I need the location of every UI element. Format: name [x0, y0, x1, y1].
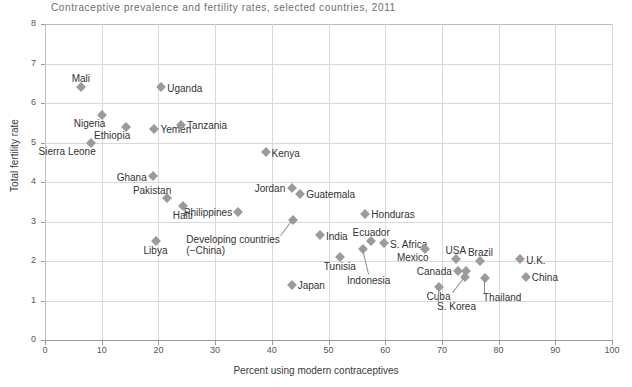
y-tick-mark — [41, 24, 45, 25]
data-point-label: Developing countries (−China) — [186, 234, 279, 256]
y-tick-label: 1 — [2, 295, 36, 305]
y-tick-mark — [41, 301, 45, 302]
data-point-label: Tunisia — [324, 261, 356, 272]
gridline-horizontal — [45, 222, 612, 223]
x-axis-label: Percent using modern contraceptives — [0, 365, 632, 376]
data-point-label: Nigeria — [74, 118, 106, 129]
gridline-horizontal — [45, 103, 612, 104]
x-tick-label: 100 — [592, 345, 632, 355]
data-point-label: Ethiopia — [94, 130, 130, 141]
y-tick-mark — [41, 182, 45, 183]
data-point-label: Ghana — [117, 172, 147, 183]
y-tick-mark — [41, 143, 45, 144]
data-point-label: Libya — [144, 245, 168, 256]
data-point-label: Kenya — [272, 148, 300, 159]
x-tick-label: 10 — [82, 345, 122, 355]
data-point-label: Thailand — [483, 292, 521, 303]
x-tick-label: 40 — [252, 345, 292, 355]
data-point-label: Haiti — [173, 210, 193, 221]
x-tick-label: 30 — [195, 345, 235, 355]
data-point-label: Mali — [72, 73, 90, 84]
data-point-label: Japan — [298, 280, 325, 291]
x-tick-label: 20 — [138, 345, 178, 355]
data-point-label: Brazil — [468, 247, 493, 258]
data-point-label: Pakistan — [133, 185, 171, 196]
data-point-label: Indonesia — [347, 275, 390, 286]
chart-title: Contraceptive prevalence and fertility r… — [51, 2, 396, 13]
data-point-label: Canada — [417, 266, 452, 277]
x-tick-label: 90 — [535, 345, 575, 355]
data-point-label: China — [532, 272, 558, 283]
data-point-label: U.K. — [526, 255, 545, 266]
x-tick-label: 50 — [309, 345, 349, 355]
y-tick-mark — [41, 64, 45, 65]
y-tick-mark — [41, 340, 45, 341]
y-axis-label: Total fertility rate — [9, 86, 20, 226]
x-tick-label: 0 — [25, 345, 65, 355]
label-leader-line — [484, 278, 485, 293]
data-point-label: Jordan — [255, 183, 286, 194]
y-tick-label: 7 — [2, 58, 36, 68]
gridline-horizontal — [45, 143, 612, 144]
data-point-label: USA — [446, 245, 467, 256]
x-tick-label: 60 — [365, 345, 405, 355]
data-point-label: India — [326, 231, 348, 242]
scatter-chart: Contraceptive prevalence and fertility r… — [0, 0, 632, 387]
data-point-label: Honduras — [371, 209, 414, 220]
data-point-label: S. Korea — [437, 301, 476, 312]
label-leader-line — [438, 287, 439, 302]
y-tick-mark — [41, 222, 45, 223]
x-tick-label: 70 — [422, 345, 462, 355]
data-point-label: Ecuador — [353, 227, 390, 238]
gridline-horizontal — [45, 301, 612, 302]
y-tick-label: 0 — [2, 334, 36, 344]
y-tick-label: 2 — [2, 255, 36, 265]
data-point-label: Mexico — [397, 252, 429, 263]
gridline-vertical — [612, 24, 613, 340]
data-point-label: Uganda — [167, 83, 202, 94]
gridline-horizontal — [45, 64, 612, 65]
y-tick-mark — [41, 261, 45, 262]
y-tick-mark — [41, 103, 45, 104]
data-point-label: Sierra Leone — [38, 146, 95, 157]
x-tick-label: 80 — [479, 345, 519, 355]
data-point-label: Tanzania — [187, 120, 227, 131]
y-tick-label: 8 — [2, 18, 36, 28]
data-point-label: Guatemala — [306, 189, 355, 200]
